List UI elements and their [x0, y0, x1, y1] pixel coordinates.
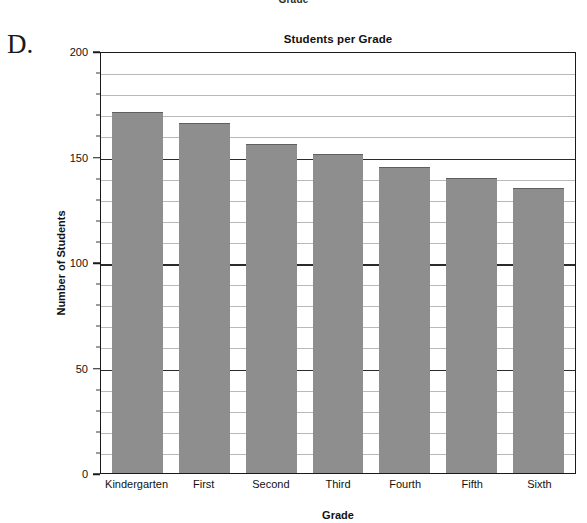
x-tick-label-third: Third	[304, 478, 371, 496]
x-tick-label-sixth: Sixth	[506, 478, 573, 496]
bar-slot	[505, 53, 572, 473]
x-tick-label-fourth: Fourth	[372, 478, 439, 496]
x-axis-tick-labels: KindergartenFirstSecondThirdFourthFifthS…	[100, 478, 576, 496]
y-tick-mark-major	[93, 368, 100, 370]
bar-slot	[305, 53, 372, 473]
bar-fourth[interactable]	[379, 167, 430, 473]
bar-third[interactable]	[313, 154, 364, 473]
bar-fifth[interactable]	[446, 178, 497, 473]
y-tick-label: 50	[76, 363, 88, 375]
x-tick-label-first: First	[170, 478, 237, 496]
bar-second[interactable]	[246, 144, 297, 473]
bar-slot	[238, 53, 305, 473]
y-tick-label: 150	[70, 152, 88, 164]
plot-area	[100, 52, 576, 474]
bars-layer	[101, 53, 575, 473]
y-tick-mark-major	[93, 157, 100, 159]
x-tick-label-second: Second	[237, 478, 304, 496]
bar-sixth[interactable]	[513, 188, 564, 473]
x-tick-label-kindergarten: Kindergarten	[103, 478, 170, 496]
bar-slot	[171, 53, 238, 473]
y-tick-mark-major	[93, 473, 100, 475]
x-axis-title: Grade	[100, 509, 576, 521]
bar-slot	[371, 53, 438, 473]
bar-slot	[438, 53, 505, 473]
bar-first[interactable]	[179, 123, 230, 473]
bar-slot	[104, 53, 171, 473]
cut-off-axis-label-above: Grade	[0, 0, 587, 3]
y-tick-label: 200	[70, 46, 88, 58]
bar-kindergarten[interactable]	[112, 112, 163, 473]
y-axis-ticks: 050100150200	[0, 52, 100, 474]
x-tick-label-fifth: Fifth	[439, 478, 506, 496]
y-tick-label: 0	[82, 468, 88, 480]
y-tick-label: 100	[70, 257, 88, 269]
chart-title: Students per Grade	[100, 33, 576, 45]
y-tick-mark-major	[93, 51, 100, 53]
y-tick-mark-major	[93, 262, 100, 264]
